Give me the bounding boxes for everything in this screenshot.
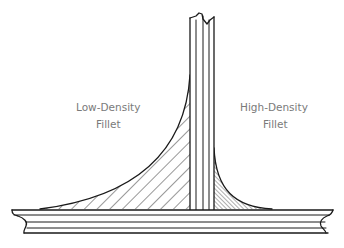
high-density-fillet bbox=[214, 148, 272, 209]
low-density-fillet bbox=[40, 75, 190, 209]
fillet-diagram: Low-Density Fillet High-Density Fillet bbox=[0, 0, 344, 248]
low-density-label-line1: Low-Density bbox=[76, 101, 140, 113]
low-density-label-line2: Fillet bbox=[96, 118, 121, 130]
vertical-web bbox=[190, 13, 214, 210]
high-density-label-line2: Fillet bbox=[263, 118, 288, 130]
base-plate bbox=[12, 210, 333, 233]
high-density-label-line1: High-Density bbox=[240, 101, 308, 113]
